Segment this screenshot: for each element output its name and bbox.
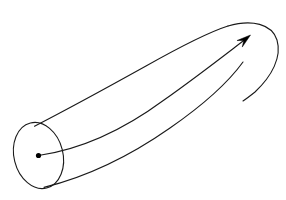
diagram-canvas: [0, 0, 286, 200]
diagram-background: [0, 0, 286, 200]
tube-diagram-svg: [0, 0, 286, 200]
axis-origin-dot: [36, 153, 41, 158]
